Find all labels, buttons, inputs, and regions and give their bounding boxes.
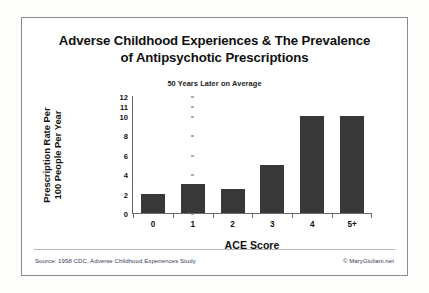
- x-axis-slot: 2: [213, 214, 253, 236]
- bar-slot: [173, 96, 213, 213]
- chart-subtitle: 50 Years Later on Average: [22, 79, 407, 88]
- bar-slot: [332, 96, 372, 213]
- y-axis-tick-label: 0: [112, 210, 128, 219]
- footer-divider: [34, 249, 395, 250]
- bar-slot: [133, 96, 173, 213]
- x-axis-slot: 0: [133, 214, 173, 236]
- y-axis-tick-label: 6: [112, 151, 128, 160]
- y-axis-tick-label: 2: [112, 190, 128, 199]
- bar-series: [133, 96, 372, 213]
- x-axis-tick-label: 1: [173, 220, 213, 229]
- bar: [181, 184, 205, 213]
- x-axis-tick-label: 0: [133, 220, 173, 229]
- chart-title-line-1: Adverse Childhood Experiences & The Prev…: [22, 33, 407, 50]
- x-axis-tick-label: 3: [252, 220, 292, 229]
- footer-credit-text: © MaryGiuliani.net: [343, 257, 394, 264]
- bar: [260, 165, 284, 213]
- bar: [141, 194, 165, 213]
- chart-title-line-2: of Antipsychotic Prescriptions: [22, 50, 407, 67]
- x-axis-tick-label: 5+: [332, 220, 372, 229]
- y-axis-title: Prescription Rate Per 100 People Per Yea…: [32, 96, 72, 214]
- y-axis-tick-labels: 02468101112: [112, 96, 128, 214]
- x-axis-tick-mark: [332, 214, 333, 218]
- x-axis-tick-mark: [133, 214, 134, 218]
- bar: [300, 116, 324, 213]
- bar-slot: [292, 96, 332, 213]
- x-axis-slot: 1: [173, 214, 213, 236]
- bar: [221, 189, 245, 213]
- x-axis-tick-mark: [252, 214, 253, 218]
- x-axis-tick-mark: [213, 214, 214, 218]
- y-axis-tick-label: 11: [112, 102, 128, 111]
- chart-card: Adverse Childhood Experiences & The Prev…: [21, 17, 408, 276]
- bar-slot: [213, 96, 253, 213]
- page-background: Adverse Childhood Experiences & The Prev…: [0, 0, 429, 293]
- x-axis-tick-label: 2: [213, 220, 253, 229]
- y-axis-tick-label: 4: [112, 171, 128, 180]
- x-axis-slot: 3: [252, 214, 292, 236]
- x-axis-tick-labels: 012345+: [133, 214, 372, 236]
- plot-box: 012345+: [132, 96, 372, 214]
- x-axis-tick-label: 4: [292, 220, 332, 229]
- y-axis-tick-label: 10: [112, 112, 128, 121]
- x-axis-slot: 4: [292, 214, 332, 236]
- y-axis-tick-label: 12: [112, 93, 128, 102]
- bar: [340, 116, 364, 213]
- x-axis-tick-mark: [292, 214, 293, 218]
- x-axis-tick-mark: [173, 214, 174, 218]
- bar-slot: [252, 96, 292, 213]
- chart-title: Adverse Childhood Experiences & The Prev…: [22, 33, 407, 66]
- y-axis-tick-label: 8: [112, 132, 128, 141]
- x-axis-slot: 5+: [332, 214, 372, 236]
- chart-plot-area: Prescription Rate Per 100 People Per Yea…: [50, 96, 385, 236]
- footer-source-text: Source: 1998 CDC, Adverse Childhood Expe…: [35, 257, 196, 264]
- x-axis-tick-mark: [371, 214, 372, 218]
